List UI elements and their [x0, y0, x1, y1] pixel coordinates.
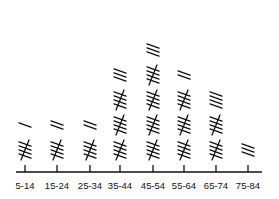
- tally-group-five: [178, 140, 190, 160]
- tally-group-five: [178, 115, 190, 135]
- tally-group-partial: [242, 144, 254, 156]
- tally-group-five: [114, 115, 126, 135]
- tally-group-five: [84, 140, 96, 160]
- tally-group-partial: [114, 69, 126, 81]
- tally-group-partial: [147, 44, 159, 56]
- tally-group-partial: [19, 123, 31, 127]
- tally-group-five: [210, 115, 222, 135]
- x-axis-label: 15-24: [45, 180, 69, 191]
- tally-group-partial: [210, 92, 222, 108]
- tally-group-five: [114, 140, 126, 160]
- x-axis-ticks: [25, 165, 248, 172]
- x-axis-label: 65-74: [204, 180, 228, 191]
- tally-group-partial: [51, 121, 63, 129]
- tally-group-five: [147, 90, 159, 110]
- x-axis-label: 35-44: [108, 180, 132, 191]
- tally-chart-canvas: [0, 0, 279, 199]
- x-axis-label: 75-84: [236, 180, 260, 191]
- tally-group-five: [147, 65, 159, 85]
- tally-group-partial: [178, 71, 190, 79]
- tally-group-five: [147, 140, 159, 160]
- x-axis-label: 55-64: [172, 180, 196, 191]
- tally-group-five: [51, 140, 63, 160]
- x-axis-label: 25-34: [78, 180, 102, 191]
- tally-group-partial: [84, 121, 96, 129]
- x-axis-label: 5-14: [15, 180, 34, 191]
- tally-group-five: [19, 140, 31, 160]
- tally-marks: [19, 44, 254, 160]
- tally-group-five: [114, 90, 126, 110]
- tally-group-five: [147, 115, 159, 135]
- tally-group-five: [210, 140, 222, 160]
- tally-group-five: [178, 90, 190, 110]
- x-axis-label: 45-54: [141, 180, 165, 191]
